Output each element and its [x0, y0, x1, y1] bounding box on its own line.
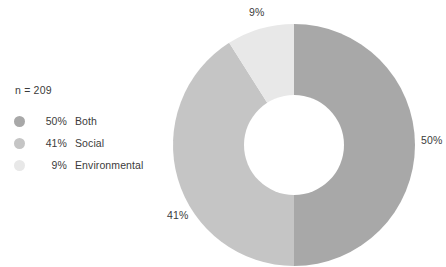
legend-label-environmental: Environmental: [75, 159, 143, 171]
sample-size-label: n = 209: [15, 84, 164, 96]
legend-percent-both: 50%: [37, 115, 67, 127]
chart-legend: n = 209 50% Both 41% Social 9% Environme…: [14, 84, 164, 176]
legend-item-environmental: 9% Environmental: [14, 154, 164, 176]
slice-callout-social: 41%: [167, 209, 188, 221]
donut-center-hole: [244, 95, 344, 195]
legend-label-social: Social: [75, 137, 104, 149]
legend-percent-environmental: 9%: [37, 159, 67, 171]
legend-percent-social: 41%: [37, 137, 67, 149]
legend-item-both: 50% Both: [14, 110, 164, 132]
legend-item-social: 41% Social: [14, 132, 164, 154]
slice-callout-both: 50%: [421, 134, 442, 146]
legend-swatch-social-icon: [14, 138, 25, 149]
donut-chart-figure: 9% 50% 41% n = 209 50% Both 41% Social 9…: [0, 0, 446, 267]
legend-swatch-environmental-icon: [14, 160, 25, 171]
legend-label-both: Both: [75, 115, 97, 127]
legend-swatch-both-icon: [14, 116, 25, 127]
slice-callout-environmental: 9%: [249, 6, 264, 18]
